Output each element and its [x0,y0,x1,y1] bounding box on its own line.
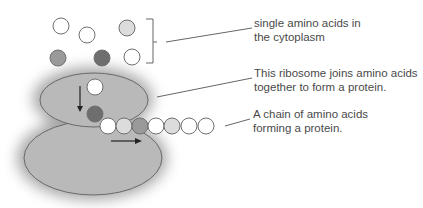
label-line: A chain of amino acids [253,108,368,122]
label-protein-chain: A chain of amino acids forming a protein… [253,108,368,135]
label-free-amino-acids: single amino acids in the cytoplasm [254,17,361,44]
label-line: together to form a protein. [254,81,418,95]
label-line: This ribosome joins amino acids [254,67,418,81]
chain-amino-acid [132,118,148,134]
leader-line-free [166,28,252,42]
chain-amino-acid [116,118,132,134]
ribosome-amino-acid [87,79,103,95]
free-amino-acid [53,18,69,34]
chain-amino-acid [198,118,214,134]
label-line: forming a protein. [253,122,368,136]
label-line: single amino acids in [254,17,361,31]
free-amino-acid [79,27,95,43]
ribosome-diagram: single amino acids in the cytoplasm This… [0,0,423,208]
chain-amino-acid [148,118,164,134]
free-amino-acid [50,50,66,66]
ribosome-amino-acid [87,106,103,122]
chain-amino-acid [164,118,180,134]
bracket [146,19,157,63]
leader-line-chain [225,119,250,126]
free-amino-acid [124,49,140,65]
label-line: the cytoplasm [254,31,361,45]
chain-amino-acid [100,118,116,134]
free-amino-acid [94,50,110,66]
free-amino-acid [119,20,135,36]
leader-line-ribosome [157,78,252,97]
chain-amino-acid [181,118,197,134]
label-ribosome: This ribosome joins amino acids together… [254,67,418,94]
